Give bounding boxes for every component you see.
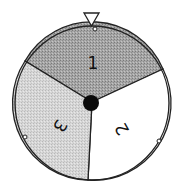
spinner-hub <box>83 95 99 111</box>
spinner-diagram: 1 2 3 <box>0 0 182 187</box>
sector-label-1: 1 <box>88 53 99 73</box>
rim-marker-top <box>93 27 97 31</box>
rim-marker-left <box>23 135 27 139</box>
rim-marker-right <box>157 139 161 143</box>
